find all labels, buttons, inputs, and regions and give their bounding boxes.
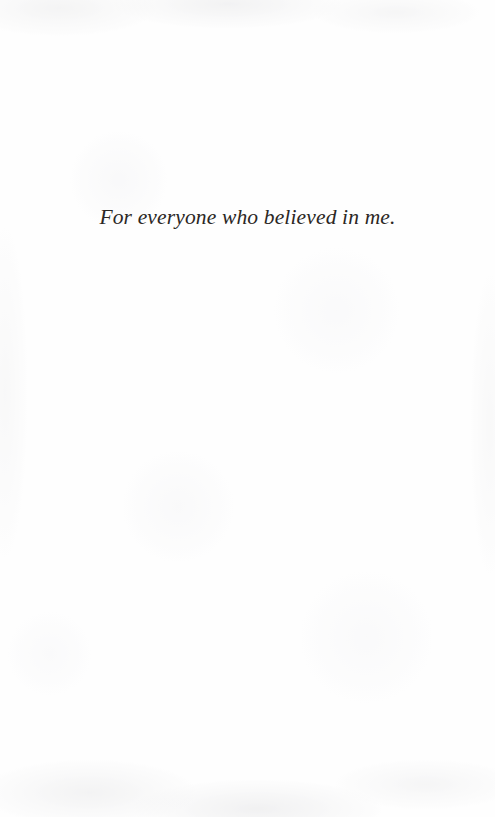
paper-grain-overlay [0,0,495,817]
dedication-block: For everyone who believed in me. [0,203,495,231]
paper-mottling-overlay [0,0,495,817]
dedication-text: For everyone who believed in me. [99,203,395,231]
book-page: For everyone who believed in me. [0,0,495,817]
